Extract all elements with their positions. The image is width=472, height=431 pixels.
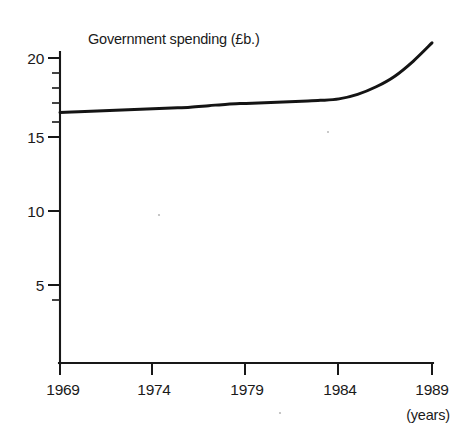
x-axis-unit-label: (years) — [406, 407, 450, 423]
line-chart: 20 15 10 5 1969 1974 1979 1984 1989 Gove… — [0, 0, 472, 431]
chart-background — [0, 0, 472, 431]
x-axis-label-1979: 1979 — [230, 381, 263, 398]
chart-page: 20 15 10 5 1969 1974 1979 1984 1989 Gove… — [0, 0, 472, 431]
y-axis-label-20: 20 — [27, 50, 44, 67]
chart-title: Government spending (£b.) — [88, 31, 260, 47]
x-axis-label-1969: 1969 — [46, 381, 79, 398]
x-axis-label-1989: 1989 — [415, 381, 448, 398]
y-axis-label-15: 15 — [27, 129, 44, 146]
x-axis-label-1974: 1974 — [137, 381, 171, 398]
x-axis-label-1984: 1984 — [323, 381, 357, 398]
y-axis-label-10: 10 — [27, 203, 44, 220]
y-axis-label-5: 5 — [36, 277, 44, 294]
